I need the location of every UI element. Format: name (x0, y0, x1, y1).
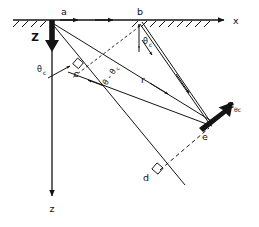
point-label-a: a (61, 6, 67, 17)
theta-c-left-base: θ (37, 65, 42, 74)
e-theta-c-subscript: θc (234, 106, 241, 113)
diagram-canvas: x z Z a b c d e r θ c θ c θ - θ c (0, 0, 259, 227)
Z-vector-arrow (45, 20, 59, 52)
ray-c-to-e (68, 72, 212, 126)
ray-b-e-outer (142, 22, 212, 124)
ray-b-e-arrow-2 (176, 74, 189, 93)
x-axis-label: x (233, 15, 239, 26)
surface-hatching (13, 21, 210, 27)
length-label-r: r (141, 74, 145, 85)
z-axis-label: z (50, 203, 55, 214)
theta-c-left-arrow (48, 66, 70, 78)
theta-c-b-subscript: c (149, 41, 152, 48)
point-label-d: d (143, 172, 149, 183)
point-label-b: b (137, 6, 143, 17)
angle-label-theta-c-left: θ c (37, 65, 46, 76)
ray-a-through-c-to-d (54, 26, 185, 185)
r-line-direction-arrow (150, 83, 168, 94)
line-a-c-d (54, 26, 185, 185)
Z-vector-label: Z (31, 31, 39, 43)
theta-c-b-base: θ (143, 37, 148, 46)
point-label-c: c (73, 68, 78, 79)
Z-vector-group (45, 20, 59, 52)
angle-label-theta-minus-theta-c: θ - θ c (101, 63, 121, 87)
ray-diagram-figure: x z Z a b c d e r θ c θ c θ - θ c (0, 0, 259, 227)
theta-c-left-subscript: c (43, 69, 46, 76)
angle-label-theta-c-at-b: θ c (143, 37, 152, 48)
point-label-e: e (202, 131, 208, 142)
ray-b-to-e (140, 22, 212, 126)
angle-indicator-left (48, 66, 70, 78)
ray-b-e-inner (140, 24, 211, 126)
